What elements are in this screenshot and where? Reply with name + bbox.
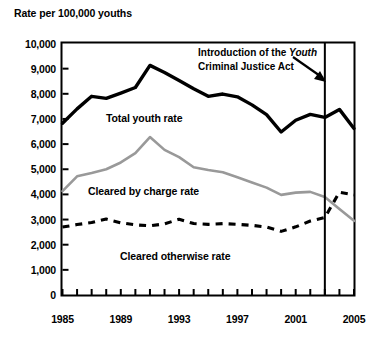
ycja-annotation-italic-1: Youth: [289, 47, 317, 58]
x-axis-ticks: [63, 289, 355, 295]
y-axis-ticks: [63, 69, 69, 270]
chart-figure: Rate per 100,000 youths 10,0009,0008,000…: [0, 0, 388, 346]
ycja-annotation-line2: Criminal Justice Act: [198, 60, 294, 73]
series-label-total-youth-rate: Total youth rate: [106, 112, 182, 124]
annotation-arrow-icon: [293, 57, 326, 82]
series-label-cleared-otherwise-rate: Cleared otherwise rate: [120, 250, 230, 262]
chart-canvas: [0, 0, 388, 346]
series-label-cleared-by-charge-rate: Cleared by charge rate: [88, 185, 199, 197]
series-line-cleared-by-charge-rate: [63, 137, 355, 221]
ycja-annotation-plain: Introduction of the: [198, 47, 289, 58]
ycja-annotation-line1: Introduction of the Youth: [198, 46, 317, 59]
series-line-cleared-otherwise-rate: [63, 192, 355, 231]
